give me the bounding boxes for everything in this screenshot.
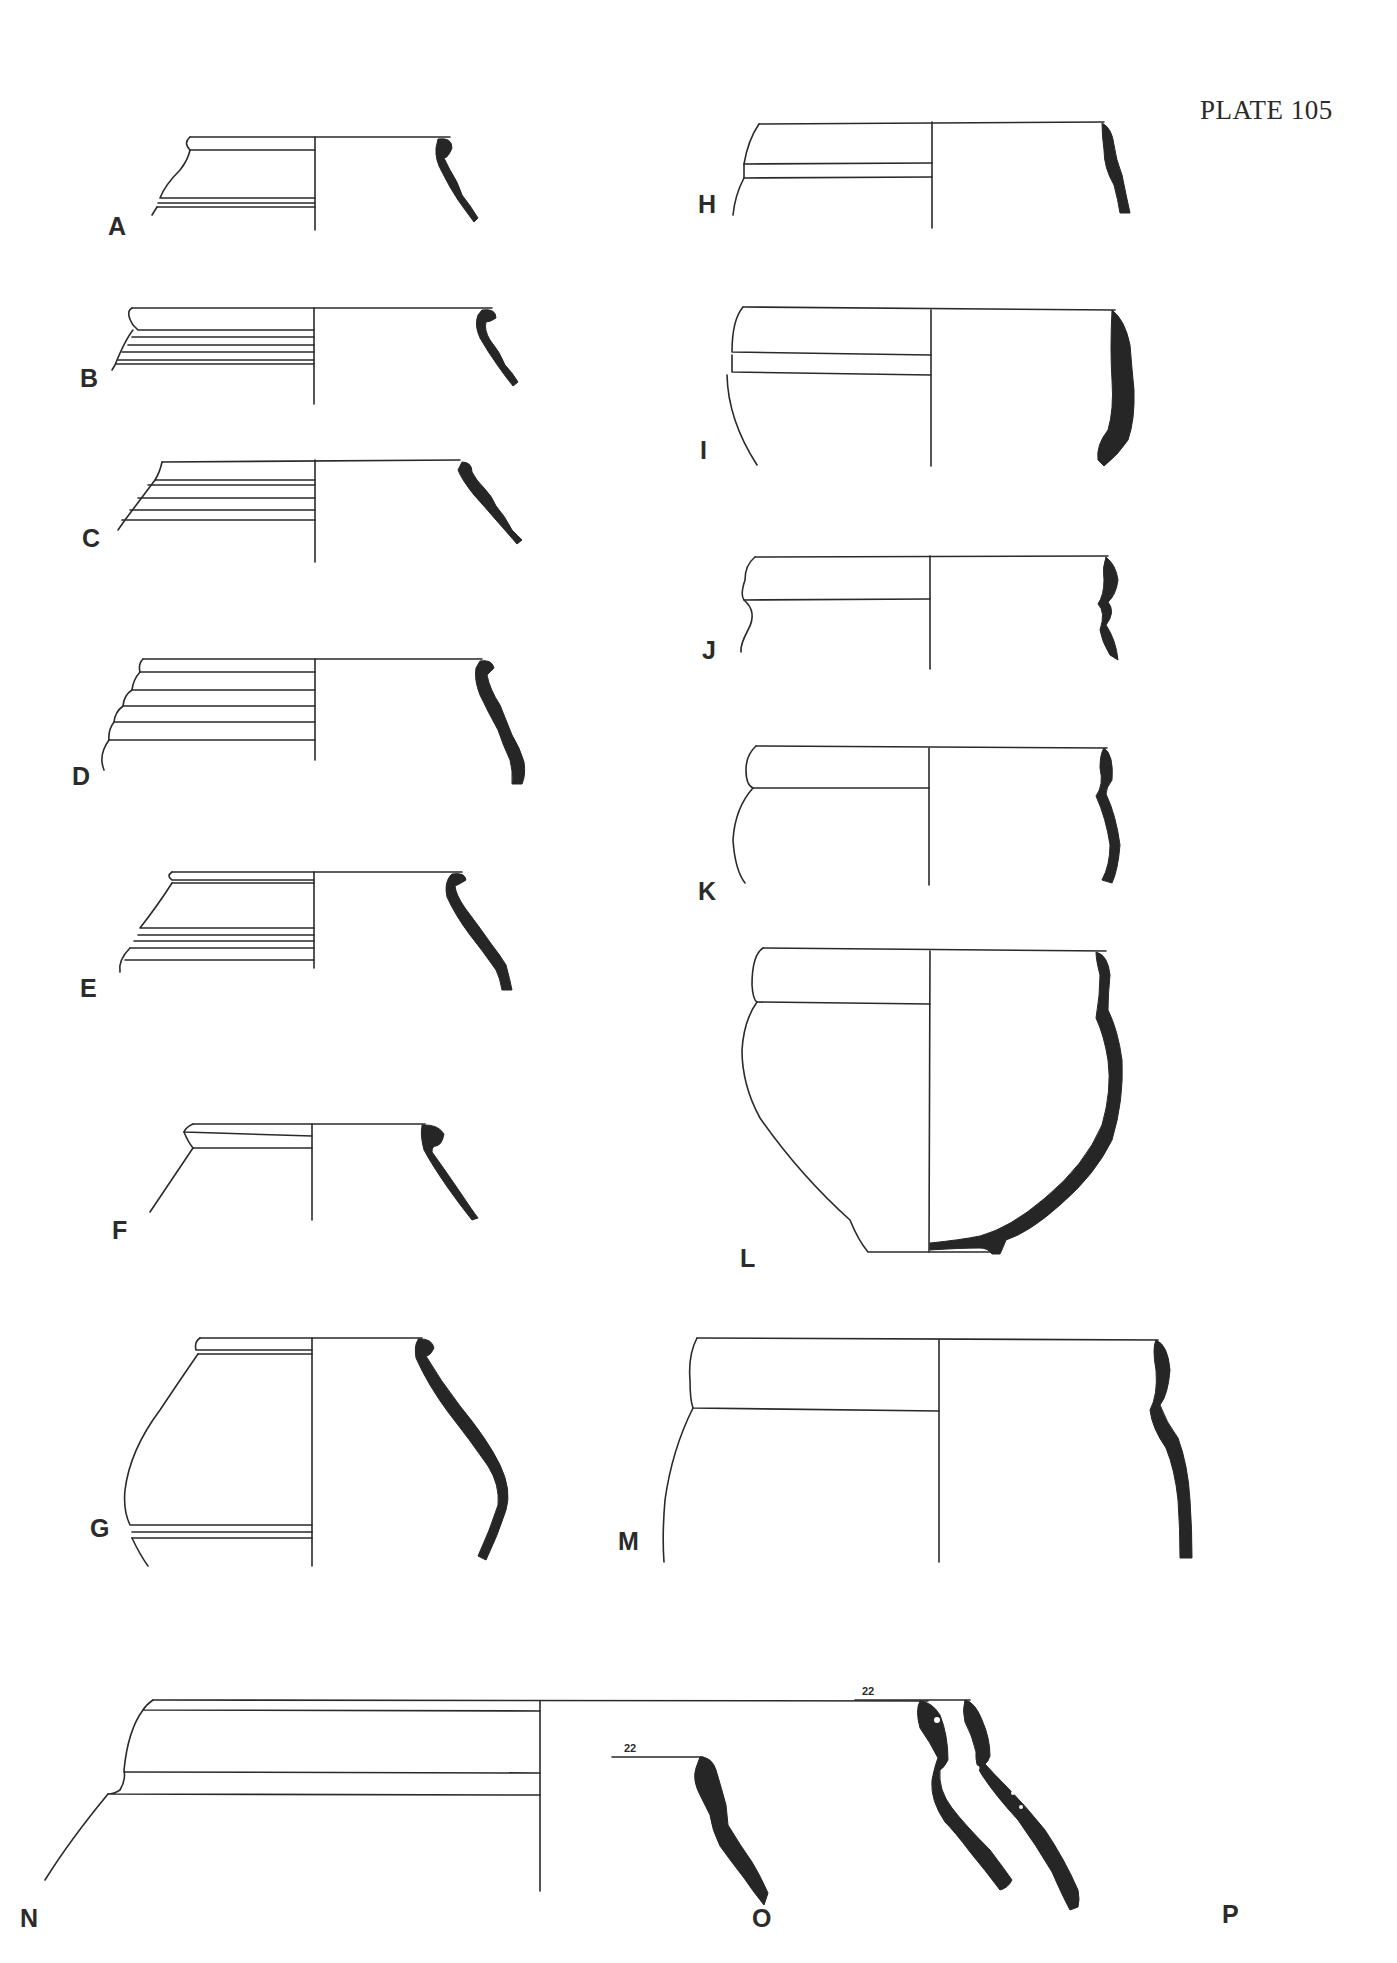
profile-m xyxy=(663,1338,1192,1562)
figure-label-b: B xyxy=(80,364,98,393)
figure-label-p: P xyxy=(1222,1900,1239,1929)
figure-label-c: C xyxy=(82,524,100,553)
figure-label-g: G xyxy=(90,1514,109,1543)
pottery-drawings xyxy=(0,0,1397,1963)
figure-label-i: I xyxy=(700,436,707,465)
profile-i xyxy=(727,307,1134,466)
profile-h xyxy=(733,122,1130,228)
profile-o xyxy=(612,1757,768,1905)
figure-label-k: K xyxy=(698,877,716,906)
figure-label-o: O xyxy=(752,1904,771,1933)
figure-label-m: M xyxy=(618,1527,639,1556)
scale-mark-o: 22 xyxy=(624,1742,636,1754)
profile-f xyxy=(150,1124,478,1220)
profile-g xyxy=(125,1338,508,1566)
profile-d xyxy=(102,659,525,784)
figure-label-a: A xyxy=(108,212,126,241)
profile-c xyxy=(118,460,522,562)
profile-l xyxy=(742,948,1122,1254)
figure-label-l: L xyxy=(740,1244,755,1273)
profile-p xyxy=(855,1700,1079,1910)
profile-e xyxy=(120,872,512,990)
figure-label-n: N xyxy=(20,1904,38,1933)
figure-label-h: H xyxy=(698,190,716,219)
profile-b xyxy=(112,308,518,404)
profile-a xyxy=(152,137,478,230)
figure-label-j: J xyxy=(702,636,716,665)
profile-n xyxy=(45,1700,1012,1891)
profile-j xyxy=(741,556,1118,669)
figure-label-d: D xyxy=(72,762,90,791)
profile-k xyxy=(733,746,1120,885)
scale-mark-p: 22 xyxy=(862,1685,874,1697)
figure-label-e: E xyxy=(80,974,97,1003)
figure-label-f: F xyxy=(112,1216,127,1245)
